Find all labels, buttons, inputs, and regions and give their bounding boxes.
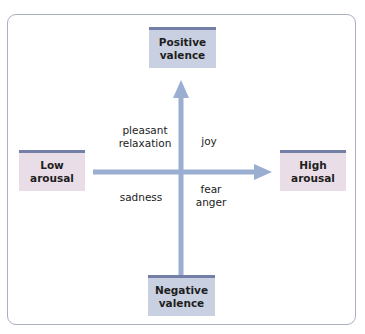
low-arousal-line1: Low	[40, 159, 64, 171]
high-arousal-line2: arousal	[291, 172, 335, 184]
quadrant-lower-left-label: sadness	[116, 191, 166, 204]
positive-valence-line1: Positive	[159, 36, 206, 48]
negative-valence-line2: valence	[159, 297, 204, 309]
positive-valence-line2: valence	[160, 49, 205, 61]
negative-valence-box: Negativevalence	[148, 275, 215, 316]
positive-valence-box: Positivevalence	[149, 27, 216, 68]
low-arousal-box: Lowarousal	[19, 150, 85, 191]
quadrant-lower-right-label: fearanger	[194, 183, 228, 209]
quadrant-upper-right-label: joy	[196, 135, 222, 148]
negative-valence-line1: Negative	[155, 284, 208, 296]
high-arousal-box: Higharousal	[280, 150, 346, 191]
up-arrow-icon	[173, 80, 189, 98]
high-arousal-line1: High	[299, 159, 326, 171]
low-arousal-line2: arousal	[30, 172, 74, 184]
right-arrow-icon	[254, 164, 272, 180]
quadrant-upper-left-label: pleasantrelaxation	[112, 124, 178, 150]
